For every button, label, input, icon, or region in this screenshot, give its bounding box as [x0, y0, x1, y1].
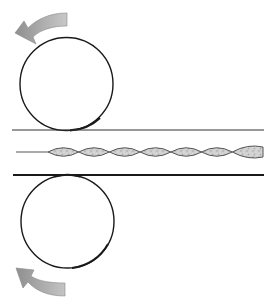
top-roller — [20, 38, 113, 131]
bottom-rotation-arrow-icon — [16, 268, 65, 296]
bottom-roller — [21, 175, 114, 268]
twisted-strand — [48, 146, 263, 158]
roller-diagram: Two counter-rotating rollers pressing a … — [0, 0, 273, 302]
diagram-svg — [0, 0, 273, 302]
